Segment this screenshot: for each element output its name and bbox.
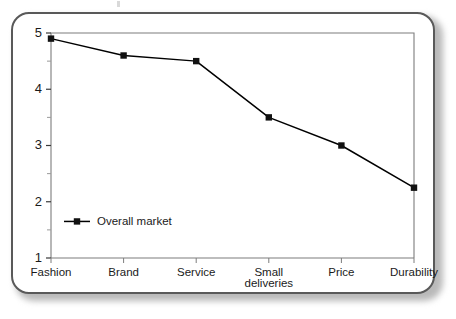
data-point-marker (120, 52, 126, 58)
data-point-marker (411, 184, 417, 190)
x-axis-label: Price (328, 266, 354, 278)
screenshot-root: 12345FashionBrandServiceSmalldeliveriesP… (0, 0, 456, 319)
x-axis-label: Durability (390, 266, 438, 278)
legend-marker (74, 218, 80, 224)
data-point-marker (338, 142, 344, 148)
data-point-marker (266, 114, 272, 120)
chart-svg: 12345FashionBrandServiceSmalldeliveriesP… (0, 0, 456, 319)
line-chart: 12345FashionBrandServiceSmalldeliveriesP… (0, 0, 456, 319)
x-axis-label: deliveries (245, 277, 294, 289)
y-axis-label: 1 (35, 250, 42, 265)
legend-label: Overall market (97, 215, 173, 227)
x-axis-label: Fashion (31, 266, 72, 278)
y-axis-label: 5 (35, 25, 42, 40)
y-axis-label: 4 (35, 81, 42, 96)
y-axis-label: 2 (35, 194, 42, 209)
data-point-marker (48, 35, 54, 41)
x-axis-label: Service (177, 266, 215, 278)
y-axis-label: 3 (35, 137, 42, 152)
x-axis-label: Brand (108, 266, 139, 278)
data-point-marker (193, 58, 199, 64)
series-line-overall-market (51, 39, 414, 188)
